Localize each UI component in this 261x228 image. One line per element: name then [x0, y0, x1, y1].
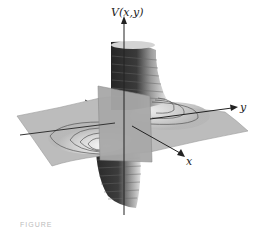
x-axis-label: x	[186, 156, 192, 167]
figure-caption-cropped: FIGURE	[20, 221, 52, 228]
y-axis-arrowhead-icon	[230, 105, 238, 112]
x-axis-arrowhead-icon	[177, 149, 185, 157]
surface-plot	[0, 0, 261, 228]
vertical-axis-label: V(x,y)	[111, 7, 143, 18]
y-axis-label: y	[240, 102, 246, 113]
potential-surface-figure: V(x,y) y x FIGURE	[0, 0, 261, 228]
